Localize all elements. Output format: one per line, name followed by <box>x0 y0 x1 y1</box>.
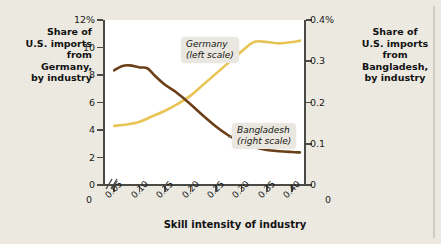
left-tick-label: 6 <box>58 97 95 108</box>
left-tick-label: 4 <box>58 124 95 135</box>
left-tick <box>97 102 103 104</box>
left-tick-label: 8 <box>58 69 95 80</box>
right-tick-label: 0.1 <box>310 138 350 149</box>
chart-figure: Share of U.S. imports from Germany, by i… <box>0 0 441 244</box>
callout-bangladesh: Bangladesh (right scale) <box>232 123 296 149</box>
left-tick-label: 0 <box>58 179 95 190</box>
x-origin-label-left: 0 <box>86 194 92 205</box>
x-origin-label-right: 0 <box>325 194 331 205</box>
left-tick <box>97 74 103 76</box>
left-tick-label: 10 <box>58 42 95 53</box>
left-tick <box>97 184 103 186</box>
right-axis-heading: Share of U.S. imports from Bangladesh, b… <box>350 26 440 84</box>
left-tick <box>97 129 103 131</box>
right-tick-label: 0.3 <box>310 55 350 66</box>
left-tick <box>97 47 103 49</box>
left-tick-label: 2 <box>58 152 95 163</box>
right-tick-label: 0.2 <box>310 97 350 108</box>
left-axis-line <box>103 20 105 186</box>
right-tick-label: 0 <box>310 179 350 190</box>
figure-right-border <box>433 6 435 238</box>
callout-germany: Germany (left scale) <box>181 37 239 63</box>
left-tick-label: 12% <box>58 14 95 25</box>
left-tick <box>97 19 103 21</box>
x-axis-title: Skill intensity of industry <box>120 219 350 230</box>
right-tick-label: 0.4% <box>310 14 350 25</box>
left-tick <box>97 157 103 159</box>
